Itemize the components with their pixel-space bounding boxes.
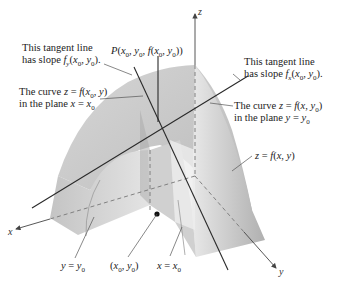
label-tangent-fy-line2: has slope fy(x0, y0).: [22, 54, 101, 70]
label-tangent-fx-line1: This tangent line: [244, 56, 315, 68]
label-tangent-fx-line2: has slope fx(x0, y0).: [244, 68, 323, 84]
y-axis-label: y: [279, 266, 283, 277]
label-plane-x0: x = x0: [157, 260, 181, 276]
label-point-P: P(x0, y0, f(x0, y0)): [111, 45, 183, 61]
label-curve-y0-line2: in the plane y = y0: [234, 112, 310, 128]
label-surface: z = f(x, y): [255, 150, 295, 162]
x-axis: [16, 219, 50, 229]
z-axis-label: z: [198, 6, 202, 17]
label-curve-x0-line2: in the plane x = x0: [19, 98, 95, 114]
label-base-point: (x0, y0): [110, 260, 139, 276]
label-tangent-fy-line1: This tangent line: [22, 42, 93, 54]
x-axis-label: x: [8, 226, 12, 237]
label-plane-y0: y = y0: [61, 260, 85, 276]
